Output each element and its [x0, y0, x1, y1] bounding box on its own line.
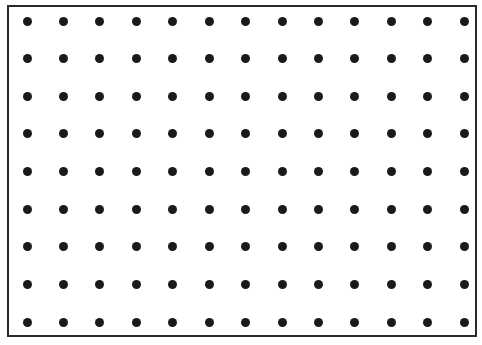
grid-dot — [278, 242, 287, 251]
grid-dot — [59, 167, 68, 176]
grid-dot — [387, 54, 396, 63]
grid-dot — [387, 205, 396, 214]
grid-dot — [350, 205, 359, 214]
grid-dot — [95, 17, 104, 26]
grid-dot — [314, 280, 323, 289]
grid-dot — [168, 205, 177, 214]
grid-dot — [168, 92, 177, 101]
grid-dot — [460, 318, 469, 327]
grid-dot — [23, 242, 32, 251]
grid-dot — [423, 280, 432, 289]
grid-dot — [460, 17, 469, 26]
grid-dot — [132, 205, 141, 214]
grid-dot — [205, 167, 214, 176]
grid-dot — [314, 318, 323, 327]
grid-dot — [460, 242, 469, 251]
grid-dot — [23, 318, 32, 327]
grid-dot — [350, 17, 359, 26]
grid-dot — [95, 318, 104, 327]
grid-dot — [387, 92, 396, 101]
grid-dot — [23, 92, 32, 101]
grid-dot — [241, 205, 250, 214]
grid-dot — [132, 54, 141, 63]
grid-dot — [314, 17, 323, 26]
grid-dot — [132, 280, 141, 289]
grid-dot — [460, 92, 469, 101]
grid-dot — [387, 167, 396, 176]
grid-dot — [23, 205, 32, 214]
grid-dot — [241, 167, 250, 176]
grid-dot — [460, 167, 469, 176]
grid-dot — [205, 129, 214, 138]
grid-dot — [423, 205, 432, 214]
grid-dot — [241, 92, 250, 101]
grid-dot — [460, 54, 469, 63]
grid-dot — [23, 54, 32, 63]
grid-dot — [132, 318, 141, 327]
grid-dot — [132, 92, 141, 101]
grid-dot — [314, 92, 323, 101]
grid-dot — [278, 318, 287, 327]
grid-dot — [423, 318, 432, 327]
grid-dot — [278, 92, 287, 101]
grid-dot — [278, 167, 287, 176]
grid-dot — [59, 54, 68, 63]
grid-dot — [278, 129, 287, 138]
grid-dot — [168, 318, 177, 327]
grid-dot — [314, 205, 323, 214]
grid-dot — [205, 92, 214, 101]
grid-dot — [387, 17, 396, 26]
grid-dot — [241, 280, 250, 289]
grid-dot — [278, 54, 287, 63]
grid-dot — [423, 17, 432, 26]
grid-dot — [168, 17, 177, 26]
grid-dot — [23, 167, 32, 176]
grid-dot — [387, 242, 396, 251]
grid-dot — [205, 54, 214, 63]
grid-dot — [95, 205, 104, 214]
grid-dot — [59, 205, 68, 214]
grid-dot — [314, 167, 323, 176]
grid-dot — [23, 280, 32, 289]
grid-dot — [132, 167, 141, 176]
grid-dot — [460, 129, 469, 138]
grid-dot — [205, 242, 214, 251]
grid-dot — [350, 318, 359, 327]
grid-dot — [205, 280, 214, 289]
grid-dot — [278, 17, 287, 26]
grid-dot — [460, 205, 469, 214]
grid-dot — [278, 205, 287, 214]
grid-dot — [205, 318, 214, 327]
grid-dot — [59, 318, 68, 327]
grid-dot — [59, 280, 68, 289]
grid-dot — [59, 92, 68, 101]
grid-dot — [314, 54, 323, 63]
grid-dot — [132, 17, 141, 26]
grid-dot — [241, 318, 250, 327]
grid-dot — [278, 280, 287, 289]
grid-dot — [23, 129, 32, 138]
dot-grid-figure — [0, 0, 482, 345]
grid-dot — [387, 318, 396, 327]
grid-dot — [59, 17, 68, 26]
grid-dot — [241, 17, 250, 26]
grid-dot — [423, 92, 432, 101]
grid-dot — [387, 280, 396, 289]
grid-dot — [23, 17, 32, 26]
grid-dot — [205, 205, 214, 214]
grid-dot — [460, 280, 469, 289]
grid-dot — [205, 17, 214, 26]
